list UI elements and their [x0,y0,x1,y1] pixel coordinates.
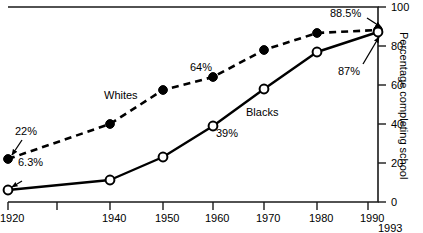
x-tick-label-1940: 1940 [102,213,126,224]
y-tick-label-100: 100 [391,2,409,13]
x-tick-label-1960: 1960 [205,213,229,224]
arrow-88p5-percent [367,18,381,27]
series-markers-blacks [4,28,383,195]
x-axis-ticks [8,202,368,210]
arrow-22-percent [12,140,22,155]
x-tick-label-1950: 1950 [155,213,179,224]
x-tick-label-1980: 1980 [309,213,333,224]
arrow-6p3-percent [12,181,22,187]
series-label-whites: Whites [104,90,138,101]
annotation-22-percent: 22% [15,126,37,137]
axis-frame [8,7,378,202]
series-label-blacks: Blacks [246,107,278,118]
annotation-6p3-percent: 6.3% [18,157,43,168]
arrow-87-percent [363,37,379,64]
series-markers-whites [4,26,383,164]
x-tick-label-1920: 1920 [0,213,24,224]
annotation-arrows [12,18,381,187]
series-line-blacks [8,32,378,190]
annotation-39-percent: 39% [216,128,238,139]
annotation-64-percent: 64% [190,62,212,73]
y-tick-label-0: 0 [391,197,397,208]
x-axis-end-year-label: 1993 [378,223,402,233]
chart-plot-area [0,0,423,233]
x-tick-label-1970: 1970 [256,213,280,224]
y-axis-title: Percentage completing school [398,32,410,179]
annotation-87-percent: 87% [338,66,360,77]
annotation-88p5-percent: 88.5% [330,8,361,19]
chart-figure: 100 80 60 40 20 0 1920 1940 1950 1960 19… [0,0,423,233]
